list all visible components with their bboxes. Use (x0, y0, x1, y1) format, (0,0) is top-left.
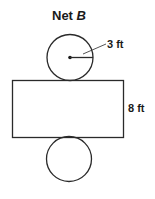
radius-leader-line (83, 44, 106, 54)
title-prefix: Net (52, 8, 77, 23)
diagram-title: Net B (52, 8, 86, 23)
net-b-diagram: Net B 3 ft 8 ft (0, 0, 155, 199)
lateral-rectangle (13, 81, 124, 138)
radius-label: 3 ft (107, 38, 124, 50)
title-variable: B (77, 8, 86, 23)
height-label: 8 ft (128, 102, 145, 114)
bottom-circle (47, 137, 92, 182)
